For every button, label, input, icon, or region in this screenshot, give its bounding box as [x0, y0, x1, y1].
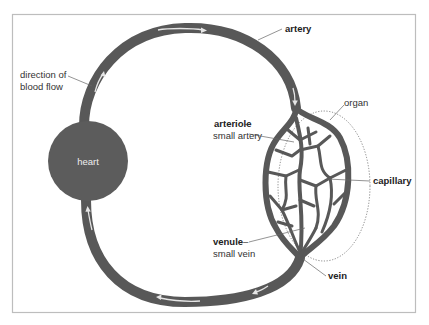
vein-label: vein: [328, 270, 347, 281]
direction-label-line1: direction of: [20, 69, 67, 80]
venule-description: small vein: [213, 248, 255, 259]
circulation-diagram: heart direction: [0, 0, 429, 325]
arteriole-dash: –: [245, 118, 251, 129]
venule-dash: –: [243, 236, 249, 247]
artery-label: artery: [285, 23, 312, 34]
direction-label-line2: blood flow: [20, 81, 63, 92]
arteriole-description: small artery: [213, 130, 262, 141]
capillary-label: capillary: [373, 175, 412, 186]
venule-label: venule: [213, 236, 243, 247]
heart-label: heart: [77, 156, 99, 167]
organ-label: organ: [344, 97, 368, 108]
